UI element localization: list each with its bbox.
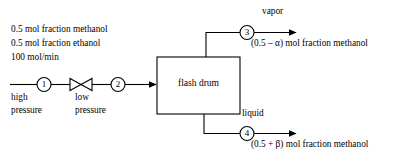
high-pressure-label: high pressure: [11, 92, 42, 118]
high-pressure-label-line-1: high: [11, 92, 42, 105]
stream-node-2-number: 2: [111, 79, 125, 89]
liquid-composition-label: (0.5 + β) mol fraction methanol: [251, 139, 368, 151]
liquid-line-to-node: [204, 114, 240, 134]
vapor-stream-label: vapor: [262, 6, 283, 18]
feed-spec-line-ethanol: 0.5 mol fraction ethanol: [11, 38, 108, 52]
high-pressure-label-line-2: pressure: [11, 105, 42, 118]
feed-spec-line-flowrate: 100 mol/min: [11, 52, 108, 66]
feed-specification-block: 0.5 mol fraction methanol 0.5 mol fracti…: [11, 24, 108, 66]
vapor-composition-label: (0.5 – α) mol fraction methanol: [251, 38, 368, 50]
valve-icon: [70, 79, 92, 91]
vapor-line-to-node: [206, 33, 240, 58]
feed-spec-line-methanol: 0.5 mol fraction methanol: [11, 24, 108, 38]
flash-drum-label: flash drum: [157, 78, 240, 88]
liquid-stream-label: liquid: [242, 108, 264, 120]
flash-drum-diagram: 0.5 mol fraction methanol 0.5 mol fracti…: [0, 0, 402, 162]
stream-node-3-number: 3: [240, 27, 254, 37]
low-pressure-label-line-2: pressure: [75, 105, 106, 118]
stream-node-1-number: 1: [37, 79, 51, 89]
stream-node-4-number: 4: [240, 128, 254, 138]
low-pressure-label-line-1: low: [75, 92, 106, 105]
low-pressure-label: low pressure: [75, 92, 106, 118]
